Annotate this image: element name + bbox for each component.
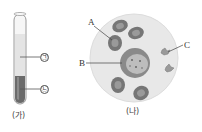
- figure-blood-cells: A B C (나): [70, 0, 202, 132]
- caption-figure-b: (나): [126, 108, 139, 116]
- figure-test-tube: ㉠ ㉡ (가): [0, 0, 70, 132]
- label-platelet: C: [184, 41, 190, 50]
- test-tube-icon: [0, 0, 70, 132]
- label-lower-layer: ㉡: [40, 85, 49, 94]
- white-blood-cell-icon: [120, 48, 150, 78]
- label-upper-layer: ㉠: [40, 53, 49, 62]
- label-white-blood-cell: B: [79, 59, 85, 68]
- caption-figure-a: (가): [12, 112, 25, 120]
- label-red-blood-cell: A: [88, 18, 95, 27]
